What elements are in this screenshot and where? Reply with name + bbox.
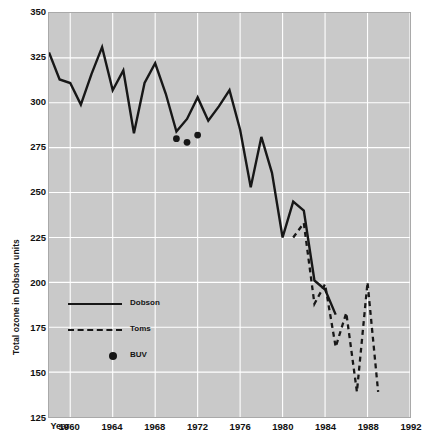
x-tick-label: 1976 xyxy=(230,421,251,432)
x-tick-label: 1960 xyxy=(59,421,80,432)
legend-item-buv: BUV xyxy=(66,348,196,364)
data-point-marker-buv xyxy=(173,135,180,142)
legend-swatch-solid-line xyxy=(66,296,124,312)
y-tick-label: 300 xyxy=(2,97,46,107)
y-tick-label: 225 xyxy=(2,233,46,243)
data-series-line-dobson xyxy=(49,47,336,315)
x-tick-label: 1968 xyxy=(144,421,165,432)
y-tick-label: 275 xyxy=(2,142,46,152)
y-tick-label: 325 xyxy=(2,52,46,62)
y-tick-label: 250 xyxy=(2,187,46,197)
y-tick-label: 175 xyxy=(2,323,46,333)
data-point-marker-buv xyxy=(184,139,191,146)
chart-legend: Dobson Toms BUV xyxy=(66,296,196,368)
data-point-marker-buv xyxy=(194,132,201,139)
legend-item-toms: Toms xyxy=(66,322,196,338)
x-tick-label: 1988 xyxy=(358,421,379,432)
x-tick-label: 1992 xyxy=(400,421,421,432)
legend-swatch-dashed-line xyxy=(66,322,124,338)
legend-swatch-dot-marker xyxy=(66,348,124,364)
legend-label-dobson: Dobson xyxy=(130,298,160,307)
y-tick-label: 150 xyxy=(2,368,46,378)
x-tick-label: 1980 xyxy=(272,421,293,432)
y-tick-label: 200 xyxy=(2,278,46,288)
x-axis-tick-labels: Year 19601964196819721976198019841988199… xyxy=(0,421,421,441)
legend-label-buv: BUV xyxy=(130,350,147,359)
y-axis-tick-labels: 125150175200225250275300325350 xyxy=(0,0,46,442)
x-tick-label: 1964 xyxy=(101,421,122,432)
legend-label-toms: Toms xyxy=(130,324,151,333)
data-series-line-toms xyxy=(293,223,378,392)
legend-item-dobson: Dobson xyxy=(66,296,196,312)
y-tick-label: 350 xyxy=(2,7,46,17)
x-tick-label: 1984 xyxy=(315,421,336,432)
x-tick-label: 1972 xyxy=(187,421,208,432)
